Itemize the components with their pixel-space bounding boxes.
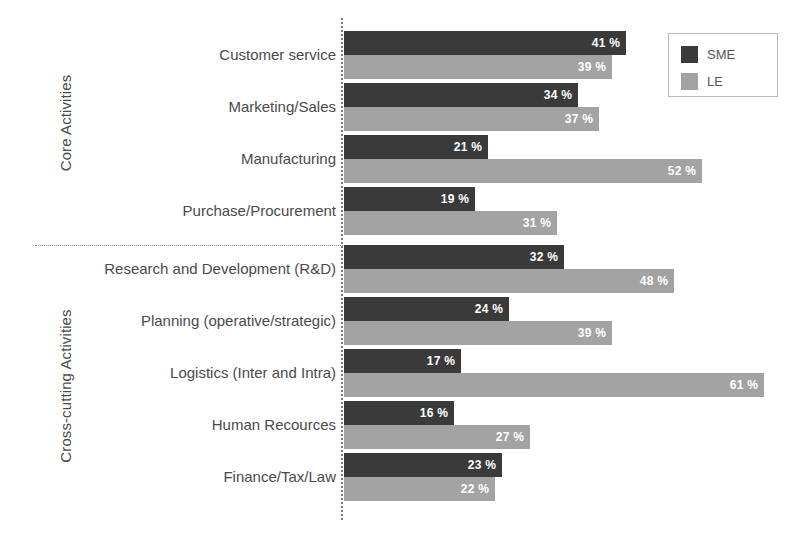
- legend-label-sme: SME: [707, 47, 735, 62]
- bar-value-label: 24 %: [475, 302, 509, 316]
- category-label: Human Recources: [6, 416, 336, 433]
- bar-value-label: 27 %: [496, 430, 530, 444]
- bar-le[interactable]: 27 %: [344, 425, 530, 449]
- bar-le[interactable]: 48 %: [344, 269, 674, 293]
- bar-le[interactable]: 52 %: [344, 159, 702, 183]
- bar-value-label: 39 %: [578, 326, 612, 340]
- bar-sme[interactable]: 24 %: [344, 297, 509, 321]
- category-label: Research and Development (R&D): [6, 260, 336, 277]
- category-label: Purchase/Procurement: [6, 202, 336, 219]
- bar-le[interactable]: 31 %: [344, 211, 557, 235]
- bar-row: Planning (operative/strategic)24 %39 %: [0, 297, 790, 345]
- bar-row: Purchase/Procurement19 %31 %: [0, 187, 790, 235]
- category-label: Planning (operative/strategic): [6, 312, 336, 329]
- bar-le[interactable]: 61 %: [344, 373, 764, 397]
- legend-item-sme[interactable]: SME: [681, 43, 777, 65]
- bar-value-label: 21 %: [454, 140, 488, 154]
- category-label: Customer service: [6, 46, 336, 63]
- legend-item-le[interactable]: LE: [681, 70, 777, 92]
- bar-value-label: 41 %: [592, 36, 626, 50]
- bar-value-label: 48 %: [640, 274, 674, 288]
- bar-value-label: 19 %: [441, 192, 475, 206]
- bar-value-label: 39 %: [578, 60, 612, 74]
- bar-sme[interactable]: 19 %: [344, 187, 475, 211]
- bar-le[interactable]: 37 %: [344, 107, 599, 131]
- category-label: Marketing/Sales: [6, 98, 336, 115]
- bar-row: Finance/Tax/Law23 %22 %: [0, 453, 790, 501]
- bar-value-label: 37 %: [565, 112, 599, 126]
- category-label: Finance/Tax/Law: [6, 468, 336, 485]
- category-label: Logistics (Inter and Intra): [6, 364, 336, 381]
- bar-value-label: 16 %: [420, 406, 454, 420]
- bar-sme[interactable]: 21 %: [344, 135, 488, 159]
- legend-swatch-le-icon: [681, 73, 698, 90]
- bar-value-label: 23 %: [468, 458, 502, 472]
- legend-swatch-sme-icon: [681, 46, 698, 63]
- bar-le[interactable]: 39 %: [344, 321, 612, 345]
- bar-value-label: 52 %: [668, 164, 702, 178]
- bar-le[interactable]: 39 %: [344, 55, 612, 79]
- bar-sme[interactable]: 32 %: [344, 245, 564, 269]
- bar-sme[interactable]: 17 %: [344, 349, 461, 373]
- bar-sme[interactable]: 23 %: [344, 453, 502, 477]
- bar-value-label: 34 %: [544, 88, 578, 102]
- bar-value-label: 17 %: [427, 354, 461, 368]
- bar-value-label: 22 %: [461, 482, 495, 496]
- bar-value-label: 31 %: [523, 216, 557, 230]
- bar-row: Research and Development (R&D)32 %48 %: [0, 245, 790, 293]
- bar-sme[interactable]: 34 %: [344, 83, 578, 107]
- bar-value-label: 32 %: [530, 250, 564, 264]
- legend-label-le: LE: [707, 74, 723, 89]
- legend: SME LE: [668, 33, 778, 97]
- category-label: Manufacturing: [6, 150, 336, 167]
- bar-row: Human Recources16 %27 %: [0, 401, 790, 449]
- bar-le[interactable]: 22 %: [344, 477, 495, 501]
- bar-value-label: 61 %: [730, 378, 764, 392]
- bar-sme[interactable]: 41 %: [344, 31, 626, 55]
- bar-row: Logistics (Inter and Intra)17 %61 %: [0, 349, 790, 397]
- bar-sme[interactable]: 16 %: [344, 401, 454, 425]
- bar-row: Manufacturing21 %52 %: [0, 135, 790, 183]
- bar-chart: Core Activities Cross-cutting Activities…: [0, 0, 790, 534]
